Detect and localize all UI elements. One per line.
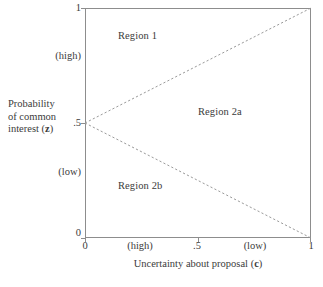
y-tick-label-high: (high) [21, 50, 81, 61]
y-axis-title-line-1: Probability [8, 98, 80, 111]
y-tick-label-bottom: 0 [21, 227, 81, 238]
region-2b-label: Region 2b [118, 180, 162, 191]
y-axis-title-line-3-suffix: ) [50, 123, 54, 134]
y-tick-label-top: 1 [21, 2, 81, 13]
region-2a-label: Region 2a [198, 106, 242, 117]
y-axis-title-line-2: of common [8, 111, 80, 124]
x-axis-title-prefix: Uncertainty about proposal ( [134, 258, 254, 269]
x-tick-label-high: (high) [110, 240, 170, 251]
figure-container: Region 1 Region 2a Region 2b 1 (high) .5… [0, 0, 323, 287]
x-tick-label-left: 0 [55, 240, 115, 251]
x-tick-label-right: 1 [281, 240, 323, 251]
y-axis-title: Probability of common interest (z) [8, 98, 80, 136]
x-axis-title: Uncertainty about proposal (c) [85, 258, 311, 269]
x-tick-label-low: (low) [225, 240, 285, 251]
x-tick-label-middle: .5 [167, 240, 227, 251]
y-tick-mark-top [81, 8, 85, 9]
y-axis-title-line-3: interest (z) [8, 123, 80, 136]
y-tick-label-low: (low) [21, 166, 81, 177]
region-boundary-lines [85, 8, 311, 238]
y-tick-mark-middle [81, 123, 85, 124]
x-axis-title-suffix: ) [259, 258, 263, 269]
region-1-label: Region 1 [118, 30, 157, 41]
y-axis-title-line-3-prefix: interest ( [8, 123, 45, 134]
